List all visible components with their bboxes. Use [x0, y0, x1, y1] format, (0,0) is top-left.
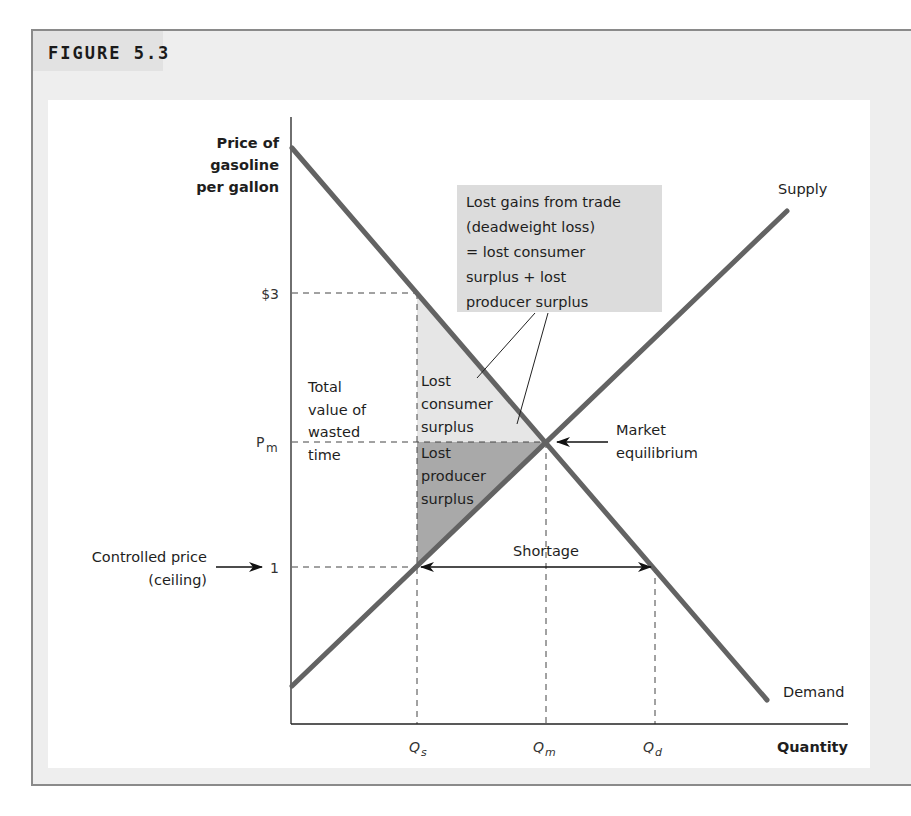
supply-label: Supply — [778, 181, 828, 197]
svg-text:per gallon: per gallon — [196, 179, 279, 195]
svg-text:Q: Q — [409, 739, 420, 755]
x-axis-label: Quantity — [777, 739, 849, 755]
svg-text:surplus + lost: surplus + lost — [466, 269, 567, 285]
x-tick-qd: Q d — [643, 739, 663, 759]
svg-text:equilibrium: equilibrium — [616, 445, 698, 461]
svg-text:gasoline: gasoline — [210, 157, 279, 173]
svg-text:Total: Total — [307, 379, 342, 395]
svg-text:= lost consumer: = lost consumer — [466, 244, 585, 260]
svg-text:(deadweight loss): (deadweight loss) — [466, 219, 595, 235]
svg-text:m: m — [545, 746, 556, 759]
svg-text:d: d — [655, 746, 663, 759]
market-equilibrium-label: Market equilibrium — [616, 422, 698, 461]
svg-text:Q: Q — [643, 739, 654, 755]
svg-text:P: P — [256, 434, 264, 450]
y-tick-3: $3 — [261, 286, 279, 302]
svg-text:Lost gains from trade: Lost gains from trade — [466, 194, 621, 210]
svg-text:Price of: Price of — [217, 135, 280, 151]
svg-text:Q: Q — [533, 739, 544, 755]
svg-text:Market: Market — [616, 422, 666, 438]
x-tick-qm: Q m — [533, 739, 556, 759]
demand-label: Demand — [783, 684, 845, 700]
wasted-time-label: Total value of wasted time — [307, 379, 367, 463]
controlled-price-label: Controlled price (ceiling) — [92, 549, 207, 588]
svg-text:wasted: wasted — [308, 424, 360, 440]
callout-leader-consumer — [477, 313, 535, 378]
svg-text:Controlled price: Controlled price — [92, 549, 207, 565]
y-tick-1: 1 — [270, 560, 279, 576]
y-axis-label: Price of gasoline per gallon — [196, 135, 280, 195]
svg-text:Lost: Lost — [421, 373, 451, 389]
svg-text:m: m — [266, 441, 278, 455]
svg-text:value of: value of — [308, 402, 367, 418]
svg-text:Lost: Lost — [421, 445, 451, 461]
svg-text:(ceiling): (ceiling) — [148, 572, 207, 588]
shortage-label: Shortage — [513, 543, 579, 559]
svg-text:s: s — [421, 746, 427, 759]
svg-text:surplus: surplus — [421, 491, 474, 507]
svg-text:consumer: consumer — [421, 396, 493, 412]
x-tick-qs: Q s — [409, 739, 427, 759]
svg-text:producer: producer — [421, 468, 486, 484]
svg-text:time: time — [308, 447, 341, 463]
svg-text:surplus: surplus — [421, 419, 474, 435]
y-tick-pm: P m — [256, 434, 278, 455]
callout-leader-producer — [517, 313, 548, 424]
svg-text:producer surplus: producer surplus — [466, 294, 588, 310]
